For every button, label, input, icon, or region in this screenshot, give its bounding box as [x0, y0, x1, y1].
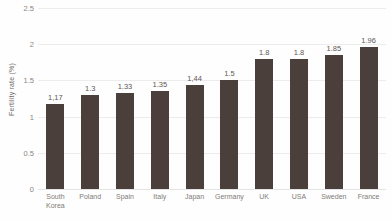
- bar-value-label: 1.8: [259, 48, 269, 57]
- bar-rect[interactable]: [255, 59, 273, 189]
- bar-value-label: 1,17: [48, 93, 63, 102]
- bar-item[interactable]: 1.3: [73, 8, 108, 189]
- x-axis-category-label: Poland: [73, 192, 108, 210]
- bar-item[interactable]: 1.5: [212, 8, 247, 189]
- bar-value-label: 1.96: [361, 36, 376, 45]
- x-axis-category-label: France: [351, 192, 386, 210]
- bar-rect[interactable]: [116, 93, 134, 189]
- x-axis-category-label: Germany: [212, 192, 247, 210]
- bar-item[interactable]: 1,17: [38, 8, 73, 189]
- y-axis-tick-label: 0.5: [24, 148, 34, 157]
- bar-rect[interactable]: [151, 91, 169, 189]
- bar-rect[interactable]: [360, 47, 378, 189]
- bar-value-label: 1.8: [294, 48, 304, 57]
- y-axis-tick-label: 1: [30, 112, 34, 121]
- x-axis-labels: South KoreaPolandSpainItalyJapanGermanyU…: [38, 192, 386, 210]
- bar-value-label: 1.5: [224, 69, 234, 78]
- bar-item[interactable]: 1.33: [108, 8, 143, 189]
- x-axis-category-label: USA: [282, 192, 317, 210]
- x-axis-category-label: South Korea: [38, 192, 73, 210]
- bar-value-label: 1.85: [326, 44, 341, 53]
- x-axis-category-label: Sweden: [316, 192, 351, 210]
- plot-area: 00.511.522.5 1,171.31.331.351,441.51.81.…: [38, 8, 386, 189]
- bar-rect[interactable]: [290, 59, 308, 189]
- axis-baseline: 0: [38, 189, 386, 190]
- fertility-rate-bar-chart: Fertility rate (%) 00.511.522.5 1,171.31…: [0, 0, 391, 222]
- y-axis-tick-label: 0: [30, 185, 34, 194]
- bar-item[interactable]: 1.96: [351, 8, 386, 189]
- x-axis-category-label: UK: [247, 192, 282, 210]
- bar-item[interactable]: 1,44: [177, 8, 212, 189]
- bar-value-label: 1.33: [118, 82, 133, 91]
- bars-group: 1,171.31.331.351,441.51.81.81.851.96: [38, 8, 386, 189]
- y-axis-tick-label: 2: [30, 40, 34, 49]
- bar-value-label: 1,44: [187, 74, 202, 83]
- bar-rect[interactable]: [81, 95, 99, 189]
- x-axis-category-label: Spain: [108, 192, 143, 210]
- x-axis-category-label: Italy: [142, 192, 177, 210]
- y-axis-tick-label: 2.5: [24, 4, 34, 13]
- bar-item[interactable]: 1.35: [142, 8, 177, 189]
- bar-item[interactable]: 1.8: [282, 8, 317, 189]
- bar-value-label: 1.35: [152, 80, 167, 89]
- x-axis-category-label: Japan: [177, 192, 212, 210]
- y-axis-title: Fertility rate (%): [8, 35, 15, 145]
- bar-rect[interactable]: [220, 80, 238, 189]
- y-axis-tick-label: 1.5: [24, 76, 34, 85]
- bar-rect[interactable]: [186, 85, 204, 189]
- bar-rect[interactable]: [46, 104, 64, 189]
- bar-item[interactable]: 1.85: [316, 8, 351, 189]
- bar-value-label: 1.3: [85, 84, 95, 93]
- bar-rect[interactable]: [325, 55, 343, 189]
- bar-item[interactable]: 1.8: [247, 8, 282, 189]
